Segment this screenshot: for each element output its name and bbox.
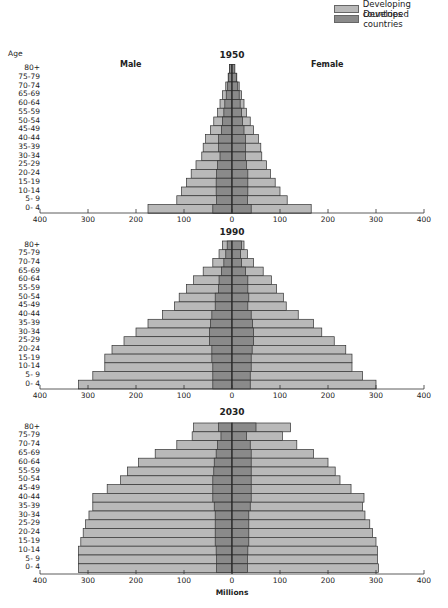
bar-female-developed	[232, 449, 251, 458]
bar-female-developed	[232, 476, 251, 485]
bar-female-developed	[232, 441, 250, 450]
bar-male-developed	[213, 485, 232, 494]
bar-male-developed	[216, 546, 232, 555]
bar-male-developed	[213, 493, 232, 502]
bar-male-developing	[89, 511, 232, 520]
bar-male-developed	[215, 520, 232, 529]
bar-female-developed	[232, 555, 247, 564]
bar-male-developed	[218, 441, 232, 450]
bar-male-developing	[81, 537, 232, 546]
bar-female-developing	[232, 502, 363, 511]
bar-female-developed	[232, 485, 251, 494]
bar-male-developed	[213, 476, 232, 485]
bar-male-developed	[216, 449, 232, 458]
bar-female-developed	[232, 502, 250, 511]
bar-female-developed	[232, 493, 251, 502]
bar-female-developing	[232, 493, 364, 502]
bar-male-developing	[78, 555, 232, 564]
bar-male-developed	[215, 537, 232, 546]
bar-female-developing	[232, 529, 373, 538]
bar-male-developed	[217, 564, 232, 573]
bar-male-developed	[221, 432, 232, 441]
bar-female-developing	[232, 511, 365, 520]
pyramid-plot-2030	[0, 0, 448, 608]
bar-female-developing	[232, 537, 376, 546]
bar-female-developed	[232, 537, 249, 546]
x-axis-title: Millions	[0, 588, 448, 597]
bar-male-developing	[78, 564, 232, 573]
bar-female-developed	[232, 529, 249, 538]
bar-male-developed	[217, 555, 232, 564]
bar-female-developed	[232, 458, 251, 467]
bar-male-developing	[93, 502, 232, 511]
bar-male-developed	[214, 467, 232, 476]
bar-male-developed	[214, 458, 232, 467]
bar-male-developing	[93, 493, 232, 502]
bar-female-developing	[232, 564, 378, 573]
bar-female-developed	[232, 511, 249, 520]
bar-female-developed	[232, 564, 247, 573]
bar-female-developing	[232, 555, 377, 564]
bar-male-developed	[215, 511, 232, 520]
bar-male-developing	[86, 520, 232, 529]
bar-female-developed	[232, 467, 251, 476]
bar-male-developing	[83, 529, 232, 538]
bar-female-developing	[232, 520, 370, 529]
bar-male-developed	[214, 502, 232, 511]
bar-female-developed	[232, 520, 249, 529]
bar-female-developing	[232, 546, 377, 555]
bar-male-developing	[78, 546, 232, 555]
bar-female-developed	[232, 546, 248, 555]
bar-female-developed	[232, 423, 256, 432]
bar-male-developed	[215, 529, 232, 538]
bar-female-developed	[232, 432, 246, 441]
bar-male-developed	[219, 423, 232, 432]
